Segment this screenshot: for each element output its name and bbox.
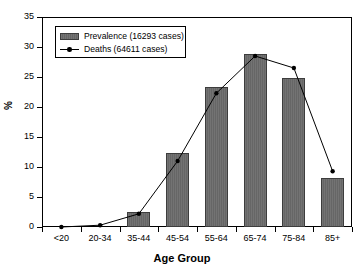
y-axis-title: % (3, 101, 14, 110)
legend-label-prevalence: Prevalence (16293 cases) (84, 30, 184, 43)
x-tick-label: 35-44 (120, 233, 159, 244)
x-tick-label: 55-64 (197, 233, 236, 244)
line-marker (137, 212, 141, 216)
y-tick: 10 (0, 167, 42, 168)
x-tick-mark (352, 227, 353, 232)
y-tick: 20 (0, 107, 42, 108)
x-tick-mark (42, 227, 43, 232)
chart-legend: Prevalence (16293 cases) Deaths (64611 c… (55, 26, 186, 58)
y-tick-label: 0 (29, 221, 34, 232)
y-tick-label: 25 (24, 71, 34, 82)
line-marker (175, 159, 179, 163)
y-tick: 15 (0, 137, 42, 138)
legend-label-deaths: Deaths (64611 cases) (84, 43, 167, 56)
line-path (61, 56, 332, 227)
y-tick-label: 20 (24, 101, 34, 112)
y-tick-label: 10 (24, 161, 34, 172)
x-tick-mark (313, 227, 314, 232)
line-marker (98, 223, 102, 227)
x-tick-mark (120, 227, 121, 232)
y-tick: 5 (0, 197, 42, 198)
legend-item-deaths: Deaths (64611 cases) (60, 43, 181, 56)
line-marker (292, 66, 296, 70)
x-tick-mark (197, 227, 198, 232)
x-tick-mark (158, 227, 159, 232)
x-tick-label: <20 (42, 233, 81, 244)
x-axis-title: Age Group (0, 252, 364, 264)
y-tick-label: 35 (24, 11, 34, 22)
x-tick-mark (236, 227, 237, 232)
y-tick-label: 30 (24, 41, 34, 52)
x-tick-label: 65-74 (236, 233, 275, 244)
x-tick-label: 20-34 (81, 233, 120, 244)
y-tick-label: 5 (29, 191, 34, 202)
y-tick: 0 (0, 227, 42, 228)
x-tick-label: 85+ (313, 233, 352, 244)
y-tick: 30 (0, 47, 42, 48)
y-tick-label: 15 (24, 131, 34, 142)
line-marker (214, 91, 218, 95)
line-marker (59, 225, 63, 229)
bar-swatch-icon (60, 33, 79, 40)
x-tick-label: 75-84 (275, 233, 314, 244)
line-marker (330, 169, 334, 173)
chart-container: % 05101520253035 <2020-3435-4445-5455-64… (0, 0, 364, 274)
x-tick-label: 45-54 (158, 233, 197, 244)
y-tick: 35 (0, 17, 42, 18)
line-marker (253, 54, 257, 58)
y-tick: 25 (0, 77, 42, 78)
legend-item-prevalence: Prevalence (16293 cases) (60, 30, 181, 43)
x-tick-mark (275, 227, 276, 232)
x-tick-mark (81, 227, 82, 232)
line-marker-icon (60, 46, 79, 53)
